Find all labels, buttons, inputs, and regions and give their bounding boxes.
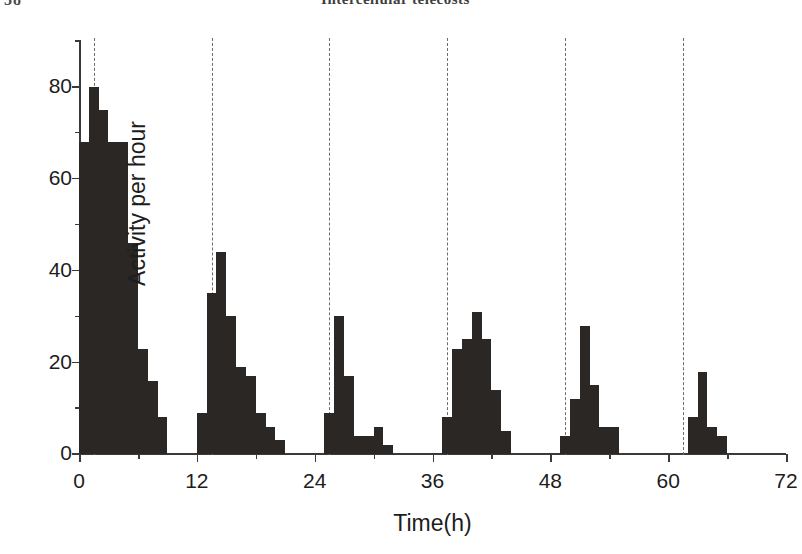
bar [354, 436, 364, 454]
bar [246, 376, 256, 454]
x-tick-major [315, 454, 317, 462]
x-tick-label: 48 [520, 470, 580, 491]
bar [383, 445, 393, 454]
y-tick-label: 80 [12, 75, 72, 96]
x-tick-label: 72 [756, 470, 802, 491]
y-tick-minor [75, 316, 80, 318]
bar [472, 312, 482, 454]
x-tick-minor [609, 454, 611, 459]
bar [491, 390, 501, 454]
x-tick-minor [256, 454, 258, 459]
bar [599, 427, 609, 455]
bar [275, 440, 285, 454]
bar [344, 376, 354, 454]
y-axis-title: Activity per hour [124, 84, 151, 324]
y-tick-label: 40 [12, 259, 72, 280]
bar [462, 339, 472, 454]
bar [452, 349, 462, 455]
bar [609, 427, 619, 455]
bar [148, 381, 158, 454]
x-tick-major [550, 454, 552, 462]
bar [698, 372, 708, 455]
bar [501, 431, 511, 454]
x-tick-major [197, 454, 199, 462]
bar [138, 349, 148, 455]
bar [197, 413, 207, 454]
y-tick-minor [75, 224, 80, 226]
x-tick-minor [727, 454, 729, 459]
y-tick-minor [75, 40, 80, 42]
bar [590, 385, 600, 454]
x-tick-label: 36 [403, 470, 463, 491]
y-tick-label: 0 [12, 442, 72, 463]
bar [717, 436, 727, 454]
bar [374, 427, 384, 455]
bar [364, 436, 374, 454]
bar [334, 316, 344, 454]
y-tick-major [72, 178, 79, 180]
y-tick-major [72, 270, 79, 272]
y-tick-label: 20 [12, 351, 72, 372]
x-tick-minor [491, 454, 493, 459]
x-tick-major [668, 454, 670, 462]
x-axis-title: Time(h) [79, 510, 786, 537]
bar [226, 316, 236, 454]
y-tick-major [72, 453, 79, 455]
bar [442, 417, 452, 454]
x-tick-major [786, 454, 788, 462]
bar [482, 339, 492, 454]
bar [570, 399, 580, 454]
x-tick-major [79, 454, 81, 462]
bar [108, 142, 118, 454]
x-tick-label: 60 [638, 470, 698, 491]
bar [580, 326, 590, 455]
y-tick-major [72, 86, 79, 88]
y-tick-major [72, 362, 79, 364]
x-tick-label: 24 [285, 470, 345, 491]
plot-area: 020406080 0122436486072 Activity per hou… [79, 40, 786, 455]
reference-line-4 [447, 38, 448, 455]
y-tick-minor [75, 132, 80, 134]
bar [99, 110, 109, 455]
bar [707, 427, 717, 455]
reference-line-5 [565, 38, 566, 455]
bar [266, 427, 276, 455]
bar [236, 367, 246, 454]
bar [89, 87, 99, 454]
reference-line-6 [683, 38, 684, 455]
bar [158, 417, 168, 454]
x-tick-minor [374, 454, 376, 459]
x-tick-minor [138, 454, 140, 459]
bar [216, 252, 226, 454]
x-tick-label: 0 [49, 470, 109, 491]
x-tick-major [433, 454, 435, 462]
y-tick-minor [75, 407, 80, 409]
reference-line-3 [329, 38, 330, 455]
bar [207, 293, 217, 454]
y-tick-label: 60 [12, 167, 72, 188]
bar [688, 417, 698, 454]
bar [560, 436, 570, 454]
bar [256, 413, 266, 454]
bar [324, 413, 334, 454]
x-tick-label: 12 [167, 470, 227, 491]
bar [79, 142, 89, 454]
